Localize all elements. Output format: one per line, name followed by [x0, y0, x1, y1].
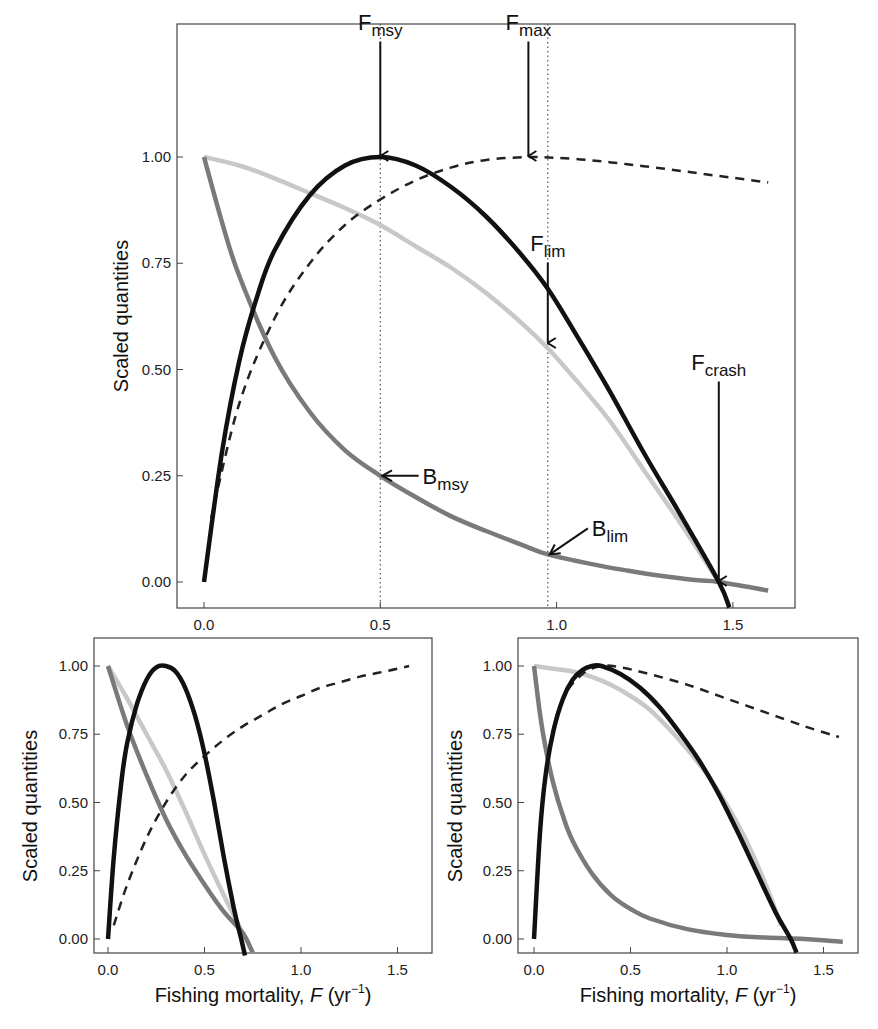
x-tick-label: 1.0: [717, 961, 738, 978]
x-axis-label: Fishing mortality, F (yr−1): [155, 982, 372, 1006]
x-tick-label: 0.0: [98, 961, 119, 978]
y-axis-label: Scaled quantities: [444, 730, 466, 882]
y-tick-label: 0.50: [142, 361, 171, 378]
series-group: [534, 665, 843, 952]
y-axis-label: Scaled quantities: [19, 730, 41, 882]
y-tick-label: 0.00: [483, 930, 512, 947]
y-axis-label: Scaled quantities: [110, 240, 132, 392]
x-tick-label: 1.5: [387, 961, 408, 978]
annotation-b-msy: Bmsy: [423, 464, 469, 494]
main-panel: 0.00.51.01.50.000.250.500.751.00 FmsyFma…: [110, 10, 795, 634]
bottom-right-panel: 0.00.51.01.50.000.250.500.751.00 Scaled …: [444, 638, 858, 1006]
series-yield: [534, 665, 797, 952]
y-tick-label: 0.25: [483, 862, 512, 879]
annotation-f-msy: Fmsy: [358, 10, 403, 40]
series-yield-per-recruit: [114, 666, 409, 925]
series-spawning-potential-ratio: [108, 666, 253, 953]
annotation-b-lim: Blim: [592, 516, 628, 546]
annotation-f-crash: Fcrash: [691, 350, 746, 380]
x-tick-label: 0.5: [194, 961, 215, 978]
y-tick-label: 0.25: [142, 467, 171, 484]
series-yield: [204, 157, 729, 608]
x-tick-label: 0.5: [370, 616, 391, 633]
fishing-reference-points-figure: 0.00.51.01.50.000.250.500.751.00 FmsyFma…: [0, 0, 878, 1029]
x-tick-label: 0.0: [194, 616, 215, 633]
y-tick-label: 0.75: [142, 254, 171, 271]
x-tick-label: 0.0: [524, 961, 545, 978]
y-tick-label: 0.00: [59, 930, 88, 947]
series-yield-per-recruit: [211, 157, 768, 518]
y-tick-label: 0.25: [59, 862, 88, 879]
y-tick-label: 0.50: [59, 794, 88, 811]
y-tick-label: 1.00: [483, 657, 512, 674]
axes: 0.00.51.01.50.000.250.500.751.00: [59, 657, 408, 978]
arrow-icon: [550, 528, 588, 554]
x-axis-label: Fishing mortality, F (yr−1): [580, 982, 797, 1006]
annotation-f-max: Fmax: [506, 10, 552, 40]
series-group: [108, 666, 409, 956]
series-biomass: [534, 666, 843, 942]
x-tick-label: 1.0: [546, 616, 567, 633]
x-tick-label: 1.0: [291, 961, 312, 978]
x-tick-label: 1.5: [722, 616, 743, 633]
plot-frame: [177, 24, 795, 608]
bottom-left-panel: 0.00.51.01.50.000.250.500.751.00 Scaled …: [19, 638, 432, 1006]
x-tick-label: 0.5: [620, 961, 641, 978]
series-group: [204, 157, 768, 608]
y-tick-label: 1.00: [59, 657, 88, 674]
y-tick-label: 0.00: [142, 573, 171, 590]
y-tick-label: 1.00: [142, 148, 171, 165]
x-tick-label: 1.5: [813, 961, 834, 978]
y-tick-label: 0.75: [59, 725, 88, 742]
y-tick-label: 0.50: [483, 794, 512, 811]
y-tick-label: 0.75: [483, 725, 512, 742]
annotation-f-lim: Flim: [530, 231, 565, 261]
